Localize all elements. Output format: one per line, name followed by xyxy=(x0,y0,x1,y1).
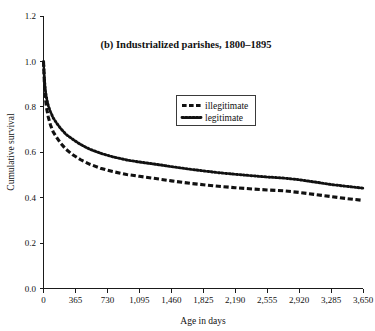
legend: illegitimate legitimate xyxy=(177,96,256,126)
x-tick-label: 2,555 xyxy=(257,295,278,305)
y-tick-label: 0.4 xyxy=(25,193,37,203)
y-axis-title: Cumulative survival xyxy=(6,113,16,191)
x-tick-label: 1,095 xyxy=(129,295,150,305)
x-tick-label: 3,650 xyxy=(353,295,374,305)
y-axis-group: 0.00.20.40.60.81.01.2 Cumulative surviva… xyxy=(6,11,44,294)
legend-label-legitimate: legitimate xyxy=(205,113,243,123)
x-tick-labels: 03657301,0951,4601,8252,1902,5552,9203,2… xyxy=(41,295,373,305)
x-tick-label: 3,285 xyxy=(321,295,342,305)
y-tick-label: 1.0 xyxy=(25,57,37,67)
survival-curve-chart: (b) Industrialized parishes, 1800–1895 0… xyxy=(0,0,375,331)
chart-title: (b) Industrialized parishes, 1800–1895 xyxy=(101,39,272,51)
x-tick-label: 1,460 xyxy=(161,295,182,305)
chart-title-group: (b) Industrialized parishes, 1800–1895 xyxy=(101,39,272,51)
data-series-group xyxy=(44,61,364,200)
y-tick-label: 0.6 xyxy=(25,147,37,157)
y-tick-label: 1.2 xyxy=(25,11,36,21)
x-tick-label: 1,825 xyxy=(193,295,214,305)
x-tick-label: 365 xyxy=(69,295,83,305)
x-axis-title: Age in days xyxy=(180,316,226,326)
x-axis-group: 03657301,0951,4601,8252,1902,5552,9203,2… xyxy=(41,289,373,327)
legend-label-illegitimate: illegitimate xyxy=(205,101,248,111)
series-line-illegitimate xyxy=(44,61,364,200)
x-tick-label: 2,920 xyxy=(289,295,310,305)
y-tick-labels: 0.00.20.40.60.81.01.2 xyxy=(25,11,37,294)
y-tick-label: 0.0 xyxy=(25,284,37,294)
x-tick-label: 0 xyxy=(41,295,46,305)
y-tick-label: 0.8 xyxy=(25,102,37,112)
x-tick-label: 2,190 xyxy=(225,295,246,305)
x-tick-label: 730 xyxy=(101,295,115,305)
y-tick-label: 0.2 xyxy=(25,238,36,248)
chart-figure: (b) Industrialized parishes, 1800–1895 0… xyxy=(0,0,375,331)
